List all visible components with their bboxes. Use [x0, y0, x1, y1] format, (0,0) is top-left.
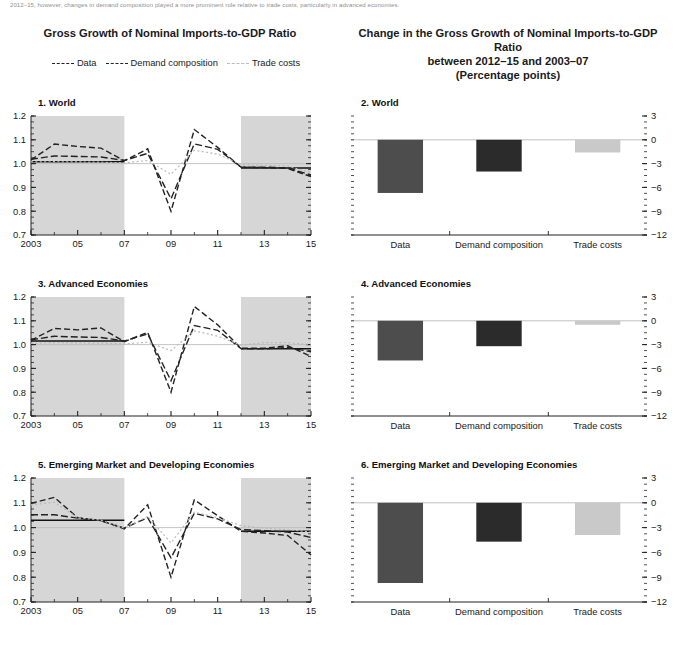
y-tick-label: 0.9 [13, 182, 26, 193]
y-tick-label: −12 [651, 410, 667, 421]
x-tick-label: 2003 [21, 605, 42, 616]
x-tick-label: 11 [213, 605, 223, 616]
panel-2-plot: 30−3−6−9−12DataDemand compositionTrade c… [339, 96, 677, 266]
right-title-line-2: between 2012–15 and 2003–07 [348, 54, 668, 68]
panel-2-label: 2. World [361, 97, 399, 108]
y-tick-label: 1.2 [13, 291, 26, 302]
shaded-band-1 [241, 297, 311, 416]
x-tick-label: 05 [72, 419, 82, 430]
y-tick-label: −9 [651, 387, 662, 398]
panel-5-label: 5. Emerging Market and Developing Econom… [38, 459, 254, 470]
bar-category-label: Demand composition [455, 239, 543, 250]
legend: Data Demand composition Trade costs [26, 56, 326, 70]
y-tick-label: −9 [651, 572, 662, 583]
y-tick-label: 0.8 [13, 572, 26, 583]
legend-item-trade-costs: Trade costs [227, 58, 300, 68]
shaded-band-1 [241, 116, 311, 235]
panel-6-plot: 30−3−6−9−12DataDemand compositionTrade c… [339, 458, 677, 633]
y-tick-label: 0 [651, 315, 656, 326]
bar-category-label: Data [390, 606, 411, 617]
y-tick-label: 0.8 [13, 206, 26, 217]
x-tick-label: 15 [306, 238, 316, 249]
y-tick-label: 3 [651, 472, 656, 483]
x-tick-label: 2003 [21, 238, 42, 249]
x-tick-label: 15 [306, 419, 316, 430]
y-tick-label: −12 [651, 596, 667, 607]
x-tick-label: 05 [72, 238, 82, 249]
x-tick-label: 09 [166, 419, 176, 430]
legend-item-demand-composition: Demand composition [106, 58, 218, 68]
panel-4-plot: 30−3−6−9−12DataDemand compositionTrade c… [339, 277, 677, 447]
y-tick-label: 0.9 [13, 547, 26, 558]
panel-5-plot: 0.70.80.91.01.11.22003050709111315 [0, 458, 338, 633]
figure-root: 2012–15, however, changes in demand comp… [0, 0, 677, 649]
bar-category-label: Trade costs [573, 420, 622, 431]
y-tick-label: −3 [651, 522, 662, 533]
panel-3-label: 3. Advanced Economies [38, 278, 148, 289]
x-tick-label: 11 [213, 238, 223, 249]
panel-3-plot: 0.70.80.91.01.11.22003050709111315 [0, 277, 338, 447]
legend-item-data: Data [52, 58, 97, 68]
panel-4-label: 4. Advanced Economies [361, 278, 471, 289]
x-tick-label: 07 [119, 238, 129, 249]
x-tick-label: 09 [166, 238, 176, 249]
panel-6-emerging-market-bar-chart: 6. Emerging Market and Developing Econom… [339, 458, 677, 633]
bar-category-label: Data [390, 420, 411, 431]
y-tick-label: −6 [651, 547, 662, 558]
y-tick-label: 0 [651, 134, 656, 145]
figure-note: 2012–15, however, changes in demand comp… [10, 0, 670, 11]
bar-trade-costs [575, 321, 620, 325]
y-tick-label: −3 [651, 158, 662, 169]
x-tick-label: 15 [306, 605, 316, 616]
y-tick-label: 1.2 [13, 110, 26, 121]
bar-demand-composition [476, 503, 521, 542]
legend-line-data-icon [52, 63, 74, 64]
panel-1-plot: 0.70.80.91.01.11.22003050709111315 [0, 96, 338, 266]
legend-label-trade-costs: Trade costs [252, 58, 300, 68]
y-tick-label: 0 [651, 497, 656, 508]
bar-category-label: Demand composition [455, 606, 543, 617]
x-tick-label: 07 [119, 605, 129, 616]
x-tick-label: 09 [166, 605, 176, 616]
y-tick-label: 1.0 [13, 522, 26, 533]
legend-line-demand-icon [106, 63, 128, 64]
legend-line-trade-icon [227, 63, 249, 64]
bar-data [378, 503, 423, 583]
bar-category-label: Trade costs [573, 239, 622, 250]
legend-label-demand-composition: Demand composition [131, 58, 218, 68]
y-tick-label: 1.0 [13, 158, 26, 169]
y-tick-label: 1.1 [13, 497, 26, 508]
right-title-line-3: (Percentage points) [348, 68, 668, 82]
right-column-title: Change in the Gross Growth of Nominal Im… [348, 26, 668, 82]
panel-6-label: 6. Emerging Market and Developing Econom… [361, 459, 577, 470]
bar-data [378, 321, 423, 361]
bar-demand-composition [476, 140, 521, 172]
x-tick-label: 07 [119, 419, 129, 430]
bar-category-label: Trade costs [573, 606, 622, 617]
y-tick-label: −12 [651, 229, 667, 240]
x-tick-label: 13 [259, 605, 269, 616]
y-tick-label: −3 [651, 339, 662, 350]
bar-data [378, 140, 423, 193]
legend-label-data: Data [77, 58, 97, 68]
shaded-band-0 [31, 478, 124, 602]
x-tick-label: 2003 [21, 419, 42, 430]
y-tick-label: 3 [651, 291, 656, 302]
y-tick-label: −6 [651, 363, 662, 374]
bar-category-label: Demand composition [455, 420, 543, 431]
panel-4-advanced-economies-bar-chart: 4. Advanced Economies 30−3−6−9−12DataDem… [339, 277, 677, 447]
right-title-line-1: Change in the Gross Growth of Nominal Im… [348, 26, 668, 54]
y-tick-label: 1.0 [13, 339, 26, 350]
panel-2-world-bar-chart: 2. World 30−3−6−9−12DataDemand compositi… [339, 96, 677, 266]
shaded-band-0 [31, 297, 124, 416]
bar-demand-composition [476, 321, 521, 346]
bar-trade-costs [575, 140, 620, 153]
shaded-band-0 [31, 116, 124, 235]
y-tick-label: 1.1 [13, 315, 26, 326]
x-tick-label: 11 [213, 419, 223, 430]
bar-category-label: Data [390, 239, 411, 250]
x-tick-label: 05 [72, 605, 82, 616]
left-column-title: Gross Growth of Nominal Imports-to-GDP R… [20, 26, 320, 40]
y-tick-label: 1.2 [13, 472, 26, 483]
x-tick-label: 13 [259, 238, 269, 249]
